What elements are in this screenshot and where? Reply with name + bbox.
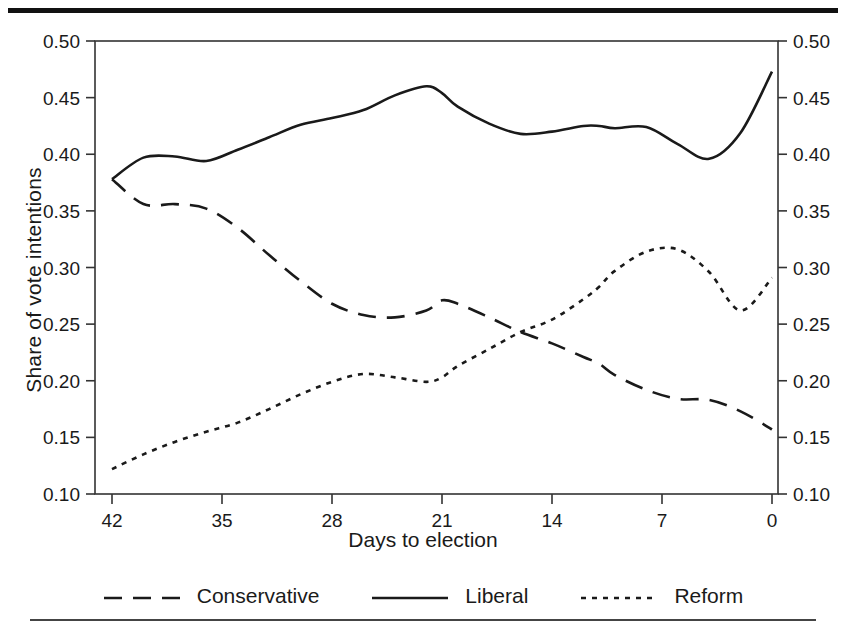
legend-item-liberal[interactable]: Liberal [371,584,528,608]
legend-label-liberal: Liberal [465,584,528,608]
chart-legend: Conservative Liberal Reform [0,576,846,616]
y-tick-label-left: 0.35 [43,201,80,222]
y-axis-label: Share of vote intentions [22,80,46,480]
x-axis-label: Days to election [0,528,846,552]
bottom-divider-rule [30,619,816,621]
y-tick-label-right: 0.35 [793,201,830,222]
y-tick-label-left: 0.50 [43,31,80,52]
y-tick-label-right: 0.40 [793,144,830,165]
plot-frame [95,41,778,494]
legend-item-reform[interactable]: Reform [580,584,743,608]
y-tick-label-left: 0.15 [43,427,80,448]
y-tick-label-left: 0.45 [43,88,80,109]
series-line-conservative [112,179,772,429]
y-tick-label-left: 0.20 [43,371,80,392]
y-tick-label-left: 0.40 [43,144,80,165]
y-tick-label-right: 0.45 [793,88,830,109]
y-tick-label-right: 0.10 [793,484,830,505]
y-tick-label-right: 0.30 [793,258,830,279]
y-tick-label-right: 0.25 [793,314,830,335]
y-tick-label-right: 0.20 [793,371,830,392]
top-divider-rule [8,8,838,13]
chart-plot-area: 0.100.100.150.150.200.200.250.250.300.30… [0,18,846,538]
y-tick-label-left: 0.10 [43,484,80,505]
y-tick-label-right: 0.15 [793,427,830,448]
legend-swatch-liberal [371,595,449,598]
y-tick-label-left: 0.25 [43,314,80,335]
legend-label-conservative: Conservative [197,584,320,608]
y-tick-label-right: 0.50 [793,31,830,52]
legend-label-reform: Reform [674,584,743,608]
series-line-reform [112,248,772,469]
chart-figure: 0.100.100.150.150.200.200.250.250.300.30… [0,18,846,616]
y-tick-label-left: 0.30 [43,258,80,279]
series-line-liberal [112,72,772,180]
legend-item-conservative[interactable]: Conservative [103,584,320,608]
legend-swatch-reform [580,595,658,598]
legend-swatch-conservative [103,595,181,598]
